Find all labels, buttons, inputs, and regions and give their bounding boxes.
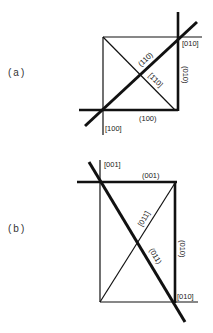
a-label-bottom-plane: (100) xyxy=(139,114,157,123)
panel-a-label: (a) xyxy=(8,67,26,78)
b-label-top-left-direction: [001] xyxy=(104,160,121,169)
b-thick-diagonal xyxy=(89,162,185,322)
crystal-planes-diagram: (a) [010] (010) (110) [1̄10] (100) [100]… xyxy=(0,0,213,333)
a-label-anti-diagonal-direction: [1̄10] xyxy=(147,71,165,89)
a-label-right-plane: (010) xyxy=(181,66,190,84)
a-label-diagonal-plane: (110) xyxy=(136,50,155,68)
a-label-bottom-left-direction: [100] xyxy=(105,124,122,133)
b-label-right-plane: (010) xyxy=(178,240,187,258)
a-label-top-right-direction: [010] xyxy=(182,39,199,48)
b-label-bottom-right-direction: [010] xyxy=(177,292,194,301)
b-label-anti-diagonal-direction: [011̄] xyxy=(136,210,152,228)
b-label-top-plane: (001) xyxy=(142,171,160,180)
panel-b-label: (b) xyxy=(8,223,26,234)
